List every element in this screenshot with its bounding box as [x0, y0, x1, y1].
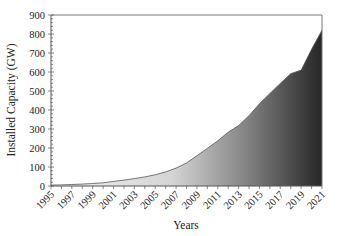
x-tick-label: 2017 — [263, 189, 286, 212]
x-tick-label: 2003 — [117, 189, 140, 212]
x-tick-label: 1997 — [55, 189, 78, 212]
x-tick-label: 2009 — [180, 189, 203, 212]
x-tick-label: 1995 — [34, 189, 57, 212]
x-tick-label: 2021 — [305, 189, 328, 212]
area-series — [51, 30, 322, 186]
x-tick-label: 2015 — [242, 189, 265, 212]
y-tick-label: 700 — [29, 48, 45, 59]
area-chart: 0100200300400500600700800900 19951997199… — [0, 0, 337, 236]
y-tick-label: 800 — [29, 29, 45, 40]
x-axis-title: Years — [173, 219, 199, 231]
x-tick-label: 2001 — [96, 189, 119, 212]
y-axis-title: Installed Capacity (GW) — [5, 43, 18, 156]
y-tick-label: 300 — [29, 124, 45, 135]
x-axis-ticks: 1995199719992001200320052007200920112013… — [34, 186, 328, 211]
x-tick-label: 2013 — [221, 189, 244, 212]
y-tick-label: 600 — [29, 67, 45, 78]
y-tick-label: 400 — [29, 105, 45, 116]
y-tick-label: 100 — [29, 162, 45, 173]
y-tick-label: 500 — [29, 86, 45, 97]
x-tick-label: 2007 — [159, 189, 182, 212]
y-tick-label: 200 — [29, 143, 45, 154]
y-tick-label: 900 — [29, 10, 45, 21]
x-tick-label: 2005 — [138, 189, 161, 212]
y-tick-label: 0 — [40, 181, 45, 192]
x-tick-label: 1999 — [75, 189, 98, 212]
x-tick-label: 2019 — [284, 189, 307, 212]
x-tick-label: 2011 — [201, 189, 223, 211]
y-axis-ticks: 0100200300400500600700800900 — [29, 10, 54, 192]
